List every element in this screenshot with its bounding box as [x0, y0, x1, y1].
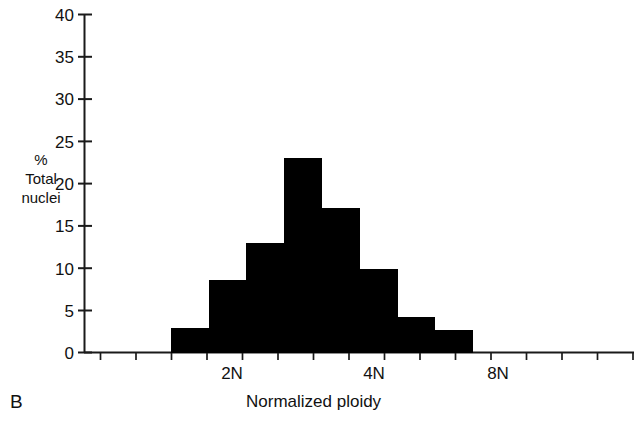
x-axis-title: Normalized ploidy	[246, 392, 496, 411]
histogram-bar	[172, 328, 210, 353]
y-axis	[78, 14, 92, 353]
histogram-bar	[435, 331, 473, 353]
histogram-bar	[247, 244, 285, 353]
chart-canvas	[0, 0, 642, 423]
histogram-bar	[397, 317, 435, 352]
x-axis	[84, 352, 634, 360]
figure-panel-b: % Total nuclei 40 35 30 25 20 15 10 5 0 …	[0, 0, 642, 423]
panel-label: B	[10, 392, 23, 411]
histogram-bar	[322, 209, 360, 353]
histogram-bar	[360, 270, 398, 353]
histogram-bar	[209, 281, 247, 353]
histogram-bars	[172, 158, 473, 352]
histogram-bar	[284, 158, 322, 352]
